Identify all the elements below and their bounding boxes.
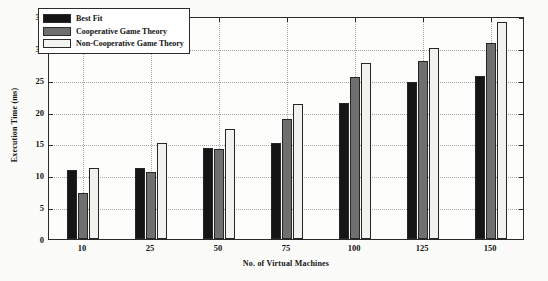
x-axis-title: No. of Virtual Machines: [48, 259, 524, 268]
legend-label: Cooperative Game Theory: [76, 27, 167, 36]
x-tick-label: 125: [402, 243, 442, 253]
x-tick-label: 10: [62, 243, 102, 253]
y-tick-mark: [49, 82, 53, 83]
y-tick-mark: [49, 114, 53, 115]
x-tick-mark: [355, 18, 356, 22]
bar: [225, 129, 235, 239]
y-tick-label: 25: [16, 76, 44, 86]
legend-swatch-icon: [43, 14, 71, 23]
bar: [67, 170, 77, 239]
x-tick-mark: [491, 18, 492, 22]
bar: [89, 168, 99, 239]
bar: [293, 104, 303, 239]
chart-legend: Best FitCooperative Game TheoryNon-Coope…: [38, 8, 190, 54]
y-tick-label: 15: [16, 139, 44, 149]
bar: [271, 143, 281, 239]
x-tick-mark: [287, 18, 288, 22]
bar: [361, 63, 371, 239]
x-tick-label: 25: [130, 243, 170, 253]
bar: [497, 22, 507, 239]
bar: [214, 149, 224, 239]
gridline-horizontal: [49, 114, 523, 115]
gridline-horizontal: [49, 82, 523, 83]
y-tick-mark: [49, 145, 53, 146]
bar: [418, 61, 428, 239]
x-tick-mark: [423, 18, 424, 22]
bar: [475, 76, 485, 239]
y-tick-label: 20: [16, 108, 44, 118]
legend-entry: Cooperative Game Theory: [43, 25, 184, 37]
bar: [146, 172, 156, 239]
legend-label: Best Fit: [76, 14, 102, 23]
y-tick-mark: [519, 145, 523, 146]
x-tick-label: 150: [470, 243, 510, 253]
x-tick-label: 100: [334, 243, 374, 253]
y-tick-mark: [519, 114, 523, 115]
legend-entry: Non-Cooperative Game Theory: [43, 38, 184, 50]
y-tick-label: 5: [16, 203, 44, 213]
x-axis-tick-labels: 10255075100125150: [48, 243, 524, 257]
y-tick-label: 10: [16, 171, 44, 181]
bar: [407, 82, 417, 239]
y-tick-mark: [519, 209, 523, 210]
bar: [486, 43, 496, 239]
y-tick-mark: [519, 177, 523, 178]
bar-chart-figure: Execution Time (ms) 05101520253035 10255…: [0, 0, 548, 281]
y-tick-mark: [519, 18, 523, 19]
bar: [339, 103, 349, 239]
bar: [157, 143, 167, 239]
bar: [78, 193, 88, 240]
bar: [282, 119, 292, 239]
y-tick-label: 0: [16, 235, 44, 245]
x-tick-mark: [219, 18, 220, 22]
legend-label: Non-Cooperative Game Theory: [76, 39, 184, 48]
legend-swatch-icon: [43, 39, 71, 48]
bar: [135, 168, 145, 239]
legend-entry: Best Fit: [43, 13, 184, 25]
y-tick-mark: [519, 50, 523, 51]
bar: [203, 148, 213, 239]
y-tick-mark: [519, 82, 523, 83]
x-tick-label: 75: [266, 243, 306, 253]
x-tick-label: 50: [198, 243, 238, 253]
bar: [429, 48, 439, 239]
y-tick-mark: [49, 209, 53, 210]
bar: [350, 77, 360, 239]
y-tick-mark: [49, 177, 53, 178]
legend-swatch-icon: [43, 27, 71, 36]
